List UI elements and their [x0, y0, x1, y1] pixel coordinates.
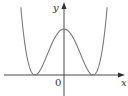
y-axis-arrow-icon — [62, 2, 67, 9]
x-axis-label: x — [121, 78, 127, 88]
origin-label: 0 — [55, 78, 61, 88]
graph-canvas — [0, 0, 128, 96]
y-axis-label: y — [53, 3, 59, 13]
function-graph: y x 0 — [0, 0, 128, 96]
